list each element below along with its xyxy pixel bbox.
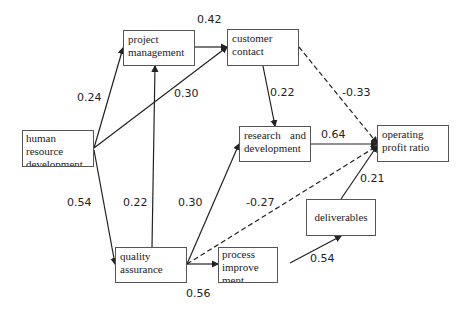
coef-del-opr: 0.21 — [360, 172, 385, 185]
coef-pi-del: 0.54 — [310, 252, 335, 265]
coef-hrd-pm: 0.24 — [77, 91, 102, 104]
node-process-improvement: process improve ment — [218, 247, 278, 283]
edge-hrd-qa — [94, 150, 115, 264]
node-operating-profit-ratio: operating profit ratio — [377, 125, 449, 162]
coef-cc-rd: 0.22 — [270, 86, 295, 99]
edge-qa-pm — [152, 66, 155, 247]
node-deliverables: deliverables — [306, 199, 376, 236]
node-research-and-development: research and development — [239, 126, 311, 162]
coef-pm-cc: 0.42 — [197, 13, 222, 26]
coef-qa-pm: 0.22 — [123, 196, 148, 209]
coef-qa-opr: -0.27 — [246, 196, 274, 209]
node-customer-contact: customer contact — [227, 29, 299, 66]
path-diagram: project management customer contact huma… — [0, 0, 471, 310]
node-quality-assurance: quality assurance — [115, 247, 187, 283]
coef-hrd-cc: 0.30 — [174, 87, 199, 100]
coef-hrd-qa: 0.54 — [67, 196, 92, 209]
node-human-resource-development: human resource development — [22, 130, 94, 167]
node-project-management: project management — [123, 30, 195, 66]
coef-qa-pi: 0.56 — [186, 287, 211, 300]
coef-qa-rd: 0.30 — [178, 196, 203, 209]
coef-rd-opr: 0.64 — [321, 128, 346, 141]
coef-cc-opr: -0.33 — [342, 86, 370, 99]
